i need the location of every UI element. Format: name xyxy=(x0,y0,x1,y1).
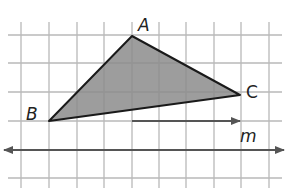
line-label-m: m xyxy=(240,128,257,145)
vertex-label-a: A xyxy=(138,17,150,34)
vertex-label-b: B xyxy=(26,106,38,123)
vertex-label-c: C xyxy=(246,84,258,101)
